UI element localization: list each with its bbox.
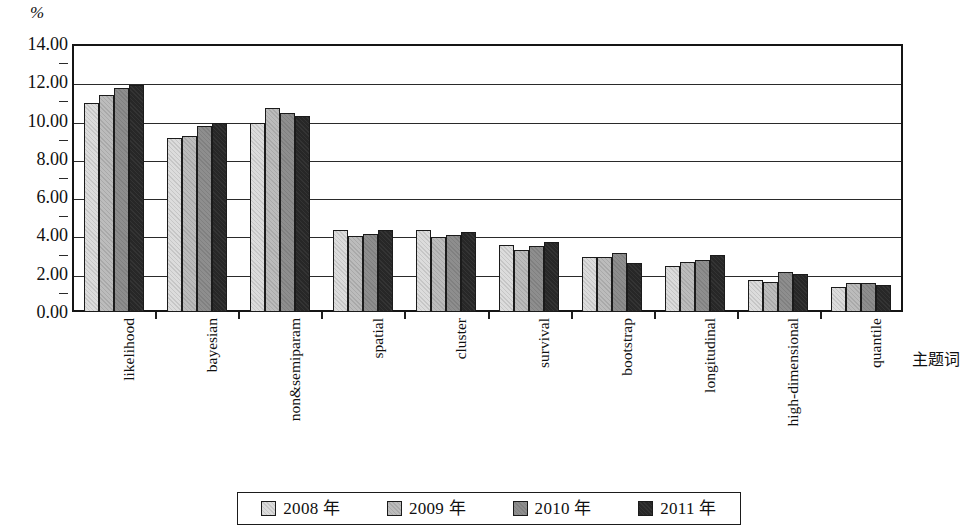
y-axis-minor-tick <box>59 216 68 217</box>
bar <box>627 263 642 312</box>
bar-group <box>416 44 476 312</box>
bar <box>665 266 680 312</box>
y-axis-tick-label: 6.00 <box>2 188 68 206</box>
y-axis-minor-tick <box>59 255 68 256</box>
bar-group <box>582 44 642 312</box>
bars-layer <box>72 44 903 312</box>
bar <box>793 274 808 312</box>
bar <box>748 280 763 312</box>
x-axis-category-label: longitudinal <box>702 318 718 393</box>
y-axis-minor-tick <box>59 101 68 102</box>
bar <box>431 237 446 312</box>
x-axis-title: 主题词 <box>912 352 960 368</box>
legend-label: 2011 年 <box>660 500 716 517</box>
y-axis-tick-label: 14.00 <box>2 35 68 53</box>
bar-group <box>333 44 393 312</box>
bar <box>167 138 182 312</box>
y-axis-tick-label: 12.00 <box>2 73 68 91</box>
bar <box>348 236 363 312</box>
bar <box>197 126 212 312</box>
bar <box>84 103 99 312</box>
x-axis-category-label: likelihood <box>121 318 137 381</box>
bar <box>778 272 793 312</box>
bar <box>529 246 544 312</box>
bar <box>265 108 280 312</box>
bar <box>363 234 378 312</box>
x-axis-category-label: cluster <box>453 318 469 359</box>
x-axis-category-label: non&semiparam <box>287 318 303 421</box>
y-axis-minor-tick <box>59 178 68 179</box>
bar <box>250 123 265 312</box>
y-axis-tick-label: 2.00 <box>2 265 68 283</box>
bar <box>544 242 559 312</box>
x-axis-category-labels: likelihoodbayesiannon&semiparamspatialcl… <box>72 318 903 478</box>
legend-item: 2009 年 <box>387 500 466 517</box>
bar <box>597 257 612 312</box>
bar <box>114 88 129 312</box>
y-axis-tick-label: 10.00 <box>2 112 68 130</box>
bar-group <box>250 44 310 312</box>
bar <box>499 245 514 312</box>
bar <box>378 230 393 312</box>
bar <box>582 257 597 312</box>
y-axis-tick-label: 8.00 <box>2 150 68 168</box>
legend-swatch-icon <box>513 501 528 516</box>
bar <box>831 287 846 312</box>
bar <box>99 95 114 312</box>
x-axis-category-label: high-dimensional <box>785 318 801 427</box>
x-axis-category-label: bootstrap <box>619 318 635 376</box>
x-axis-category-label: bayesian <box>204 318 220 372</box>
bar <box>695 260 710 312</box>
bar <box>680 262 695 312</box>
x-axis-category-label: quantile <box>868 318 884 368</box>
bar <box>710 255 725 312</box>
chart-legend: 2008 年2009 年2010 年2011 年 <box>237 492 741 525</box>
x-axis-category-label: survival <box>536 318 552 368</box>
legend-label: 2010 年 <box>535 500 592 517</box>
bar <box>514 250 529 312</box>
legend-label: 2009 年 <box>409 500 466 517</box>
bar-group <box>499 44 559 312</box>
y-axis-minor-tick <box>59 63 68 64</box>
bar <box>612 253 627 312</box>
y-axis-unit-label: % <box>30 4 44 21</box>
y-axis-tick-label: 0.00 <box>2 303 68 321</box>
legend-item: 2010 年 <box>513 500 592 517</box>
bar <box>182 136 197 312</box>
bar-group <box>748 44 808 312</box>
bar <box>846 283 861 312</box>
bar-group <box>84 44 144 312</box>
bar <box>416 230 431 312</box>
y-axis-minor-tick <box>59 140 68 141</box>
bar <box>280 113 295 312</box>
bar-group <box>831 44 891 312</box>
y-axis-tick-labels: 14.0012.0010.008.006.004.002.000.00 <box>0 44 68 312</box>
bar <box>876 285 891 312</box>
legend-item: 2011 年 <box>638 500 716 517</box>
legend-item: 2008 年 <box>261 500 340 517</box>
legend-swatch-icon <box>261 501 276 516</box>
bar <box>212 123 227 312</box>
legend-swatch-icon <box>638 501 653 516</box>
bar <box>295 116 310 312</box>
bar <box>446 235 461 312</box>
y-axis-minor-tick <box>59 293 68 294</box>
bar <box>333 230 348 312</box>
x-axis-category-label: spatial <box>370 318 386 358</box>
bar <box>861 283 876 312</box>
y-axis-tick-label: 4.00 <box>2 226 68 244</box>
bar <box>461 232 476 312</box>
legend-swatch-icon <box>387 501 402 516</box>
bar-group <box>167 44 227 312</box>
bar <box>129 85 144 312</box>
bar <box>763 282 778 312</box>
bar-group <box>665 44 725 312</box>
legend-label: 2008 年 <box>283 500 340 517</box>
